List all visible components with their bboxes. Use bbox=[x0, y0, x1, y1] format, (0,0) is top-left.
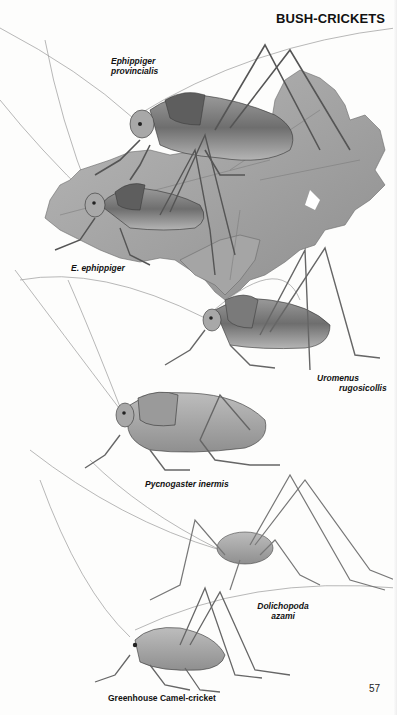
label-ephippiger-provincialis: Ephippiger provincialis bbox=[111, 56, 158, 76]
label-line: Pycnogaster inermis bbox=[145, 479, 229, 489]
insect-illustrations bbox=[0, 0, 397, 715]
label-pycnogaster-inermis: Pycnogaster inermis bbox=[145, 479, 229, 489]
pycnogaster-inermis-figure bbox=[85, 392, 280, 470]
label-line: Uromenus bbox=[317, 373, 387, 383]
dolichopoda-azami-figure bbox=[150, 475, 395, 600]
label-line: Greenhouse Camel-cricket bbox=[108, 693, 216, 703]
page-number: 57 bbox=[369, 683, 380, 694]
label-e-ephippiger: E. ephippiger bbox=[71, 263, 125, 273]
label-line: rugosicollis bbox=[317, 383, 387, 393]
label-greenhouse-camel-cricket: Greenhouse Camel-cricket bbox=[108, 693, 216, 703]
label-dolichopoda-azami: Dolichopoda azami bbox=[253, 601, 313, 621]
book-page: BUSH-CRICKETS Ephippiger provincialis E.… bbox=[0, 0, 397, 715]
label-line: azami bbox=[253, 611, 313, 621]
label-line: Ephippiger bbox=[111, 56, 158, 66]
label-line: provincialis bbox=[111, 66, 158, 76]
section-title: BUSH-CRICKETS bbox=[276, 11, 385, 26]
label-line: Dolichopoda bbox=[253, 601, 313, 611]
page-edge bbox=[393, 0, 397, 715]
label-line: E. ephippiger bbox=[71, 263, 125, 273]
label-uromenus-rugosicollis: Uromenus rugosicollis bbox=[317, 373, 387, 393]
